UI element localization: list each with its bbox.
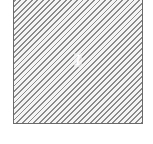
- diagram-canvas: I: [0, 0, 153, 144]
- hatched-region: I: [13, 0, 143, 124]
- region-label: I: [73, 54, 82, 67]
